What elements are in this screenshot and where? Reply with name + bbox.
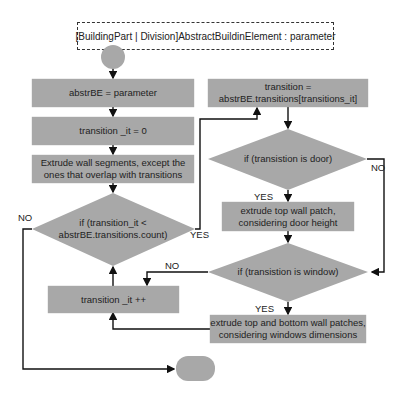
- loop-condition-line1: if (transition_it <: [79, 217, 146, 229]
- door-action-line2: considering door height: [239, 217, 338, 229]
- parameter-text: [BuildingPart | Division]AbstractBuildin…: [76, 31, 336, 42]
- window-condition-text: if (transistion is window): [220, 265, 356, 279]
- extrude-segments-box: Extrude wall segments, except the ones t…: [32, 155, 194, 183]
- init-iterator-text: transition _it = 0: [79, 125, 146, 137]
- window-yes-label: YES: [255, 303, 274, 314]
- flowchart-canvas: [BuildingPart | Division]AbstractBuildin…: [0, 0, 404, 398]
- door-yes-label: YES: [254, 191, 273, 202]
- assign-abstr-box: abstrBE = parameter: [32, 79, 194, 107]
- door-action-line1: extrude top wall patch,: [240, 205, 335, 217]
- init-iterator-box: transition _it = 0: [32, 117, 194, 145]
- get-transition-line2: abstrBE.transitions[transitions_it]: [219, 93, 357, 105]
- window-no-label: NO: [165, 260, 179, 271]
- door-action-box: extrude top wall patch, considering door…: [222, 202, 354, 231]
- loop-yes-label: YES: [190, 229, 209, 240]
- increment-text: transition _it ++: [81, 294, 146, 306]
- door-no-label: NO: [371, 162, 385, 173]
- loop-no-label: NO: [18, 212, 32, 223]
- loop-condition-text: if (transition_it < abstrBE.transitions.…: [40, 212, 186, 246]
- increment-box: transition _it ++: [48, 286, 179, 313]
- extrude-segments-line2: ones that overlap with transitions: [44, 169, 182, 181]
- door-condition-label: if (transistion is door): [244, 153, 332, 165]
- window-action-line1: extrude top and bottom wall patches,: [210, 317, 365, 329]
- window-action-box: extrude top and bottom wall patches, con…: [210, 315, 366, 343]
- loop-condition-line2: abstrBE.transitions.count): [59, 229, 168, 241]
- extrude-segments-line1: Extrude wall segments, except the: [41, 157, 186, 169]
- window-action-line2: considering windows dimensions: [219, 329, 357, 341]
- start-terminal: [101, 45, 125, 69]
- assign-abstr-text: abstrBE = parameter: [69, 87, 157, 99]
- get-transition-box: transition = abstrBE.transitions[transit…: [208, 79, 368, 107]
- get-transition-line1: transition =: [265, 81, 312, 93]
- end-terminal: [176, 356, 215, 381]
- window-condition-label: if (transistion is window): [238, 266, 339, 278]
- door-condition-text: if (transistion is door): [220, 152, 356, 166]
